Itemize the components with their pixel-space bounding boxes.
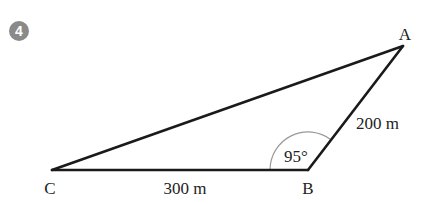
side-ba [308,46,403,170]
question-number: 4 [15,23,23,39]
vertex-label-b: B [302,179,313,198]
vertex-label-a: A [399,25,412,44]
side-label-ba: 200 m [356,114,399,133]
diagram-canvas: 4 A B C 300 m 200 m 95° [0,0,429,204]
vertex-label-c: C [44,179,55,198]
angle-label-b: 95° [284,147,308,166]
side-ca [52,46,403,170]
side-label-cb: 300 m [164,179,207,198]
triangle-diagram: 4 A B C 300 m 200 m 95° [0,0,429,204]
question-number-badge: 4 [9,21,29,41]
